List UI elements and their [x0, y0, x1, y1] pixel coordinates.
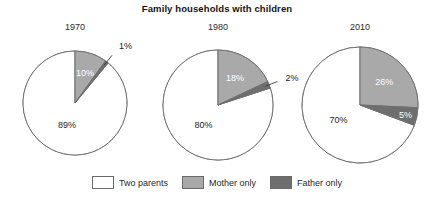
pie-value-label-1980-father-only: 2% — [286, 73, 299, 83]
legend-swatch-icon-two-parents — [92, 176, 114, 189]
pie-value-label-1980-two-parents: 80% — [194, 120, 212, 130]
pie-value-label-1970-two-parents: 89% — [58, 120, 76, 130]
chart-legend: Two parentsMother onlyFather only — [0, 176, 434, 189]
legend-swatch-icon-mother-only — [182, 176, 204, 189]
pie-chart-figure: Family households with children 1970 198… — [0, 0, 434, 214]
pie-value-label-1970-father-only: 1% — [119, 41, 132, 51]
legend-swatch-icon-father-only — [270, 176, 292, 189]
pie-value-label-1980-mother-only: 18% — [226, 73, 244, 83]
legend-item-mother-only: Mother only — [182, 176, 256, 189]
pie-value-label-1970-mother-only: 10% — [76, 68, 94, 78]
legend-label: Mother only — [209, 178, 256, 188]
pie-value-label-2010-two-parents: 70% — [330, 115, 348, 125]
pie-value-label-2010-father-only: 5% — [399, 110, 412, 120]
legend-item-father-only: Father only — [270, 176, 342, 189]
legend-label: Father only — [297, 178, 342, 188]
legend-label: Two parents — [119, 178, 168, 188]
pie-value-label-2010-mother-only: 26% — [375, 77, 393, 87]
legend-item-two-parents: Two parents — [92, 176, 168, 189]
